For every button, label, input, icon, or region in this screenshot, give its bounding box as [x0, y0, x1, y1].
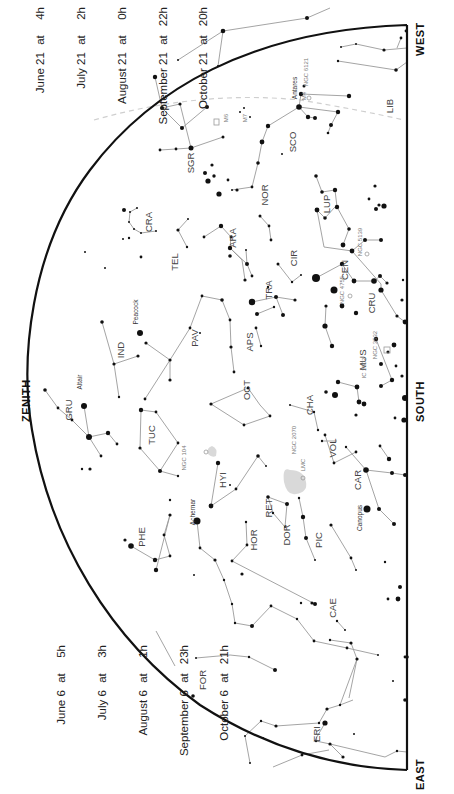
constellation-label: TUC: [146, 425, 157, 445]
constellation-label: HYI: [217, 472, 228, 488]
constellation-label: VOL: [327, 438, 338, 457]
star-name-label: Achernar: [189, 498, 196, 525]
constellation-label: RET: [263, 498, 274, 517]
date-label: July 6: [96, 690, 110, 720]
time-label: 1h: [137, 645, 151, 669]
date-label: August 21: [116, 52, 130, 104]
star-name-label: Antares: [291, 76, 298, 99]
deep-sky-label: IC 2602: [361, 357, 367, 379]
constellation-label: LUP: [321, 195, 332, 213]
date-row: September 6 at23h: [178, 645, 192, 765]
constellation-label: IND: [115, 342, 126, 359]
at-label: at: [34, 31, 48, 49]
date-label: September 21: [157, 52, 171, 124]
at-label: at: [178, 669, 192, 687]
date-label: October 21: [197, 52, 211, 109]
deep-sky-label: NGC 4755: [339, 275, 345, 304]
deep-sky-label: NGC 3532: [372, 330, 378, 359]
constellation-label: OCT: [241, 380, 252, 400]
date-row: October 6 at21h: [218, 645, 232, 765]
star-name-label: Peacock: [132, 299, 139, 325]
direction-west-label: WEST: [414, 22, 426, 56]
constellation-label: CIR: [288, 250, 299, 267]
date-label: June 21: [34, 52, 48, 93]
time-label: 21h: [218, 645, 232, 669]
deep-sky-label: NGC 104: [181, 445, 187, 471]
deep-sky-label: M7: [242, 113, 248, 122]
date-row: August 21 at0h: [116, 7, 130, 127]
at-label: at: [96, 669, 110, 687]
date-label: October 6: [218, 690, 232, 741]
deep-sky-label: NGC 2070: [291, 425, 297, 454]
constellation-label: DOR: [281, 524, 292, 545]
at-label: at: [218, 669, 232, 687]
deep-sky-label: NGC 5139: [357, 227, 363, 256]
direction-east-label: EAST: [414, 759, 426, 790]
time-label: 20h: [197, 7, 211, 31]
time-label: 22h: [157, 7, 171, 31]
dates-top-block: June 21 at4h July 21 at2h August 21 at0h…: [7, 7, 225, 127]
date-label: July 21: [75, 52, 89, 88]
constellation-label: ARA: [227, 228, 238, 248]
constellation-label: CRU: [366, 293, 377, 314]
date-row: July 6 at3h: [96, 645, 110, 765]
deep-sky-label: LMC: [300, 458, 306, 471]
at-label: at: [55, 669, 69, 687]
at-label: at: [75, 31, 89, 49]
date-label: September 6: [178, 690, 192, 756]
time-label: 23h: [178, 645, 192, 669]
constellation-label: GRU: [63, 399, 74, 420]
constellation-label: SCO: [287, 132, 298, 153]
constellation-label: CAE: [327, 598, 338, 618]
direction-zenith-label: ZENITH: [20, 379, 32, 422]
at-label: at: [137, 669, 151, 687]
constellation-label: CRA: [143, 211, 154, 232]
deep-sky-label: NGC 6121: [303, 57, 309, 86]
constellation-label: HOR: [248, 529, 259, 550]
time-label: 2h: [75, 7, 89, 31]
date-row: July 21 at2h: [75, 7, 89, 127]
constellation-label: ERI: [311, 726, 322, 742]
at-label: at: [116, 31, 130, 49]
constellation-label: CAR: [352, 470, 363, 490]
constellation-label: TRA: [263, 280, 274, 300]
deep-sky-label: M4: [301, 91, 307, 100]
dates-bottom-block: June 6 at5h July 6 at3h August 6 at1h Se…: [28, 645, 246, 765]
star-name-label: Altair: [76, 374, 83, 390]
constellation-label: NOR: [259, 184, 270, 205]
constellation-label: PIC: [313, 532, 324, 548]
direction-south-label: SOUTH: [414, 381, 426, 422]
date-row: October 21 at20h: [197, 7, 211, 127]
date-row: September 21 at22h: [157, 7, 171, 127]
constellation-label: LIB: [384, 99, 395, 113]
time-label: 4h: [34, 7, 48, 31]
constellation-label: SGR: [185, 153, 196, 174]
time-label: 0h: [116, 7, 130, 31]
date-row: June 6 at5h: [55, 645, 69, 765]
constellation-label: TEL: [169, 253, 180, 270]
constellation-label: PHE: [136, 527, 147, 547]
date-label: June 6: [55, 690, 69, 725]
time-label: 5h: [55, 645, 69, 669]
at-label: at: [157, 31, 171, 49]
star-name-label: Canopus: [356, 504, 364, 531]
time-label: 3h: [96, 645, 110, 669]
date-row: August 6 at1h: [137, 645, 151, 765]
constellation-label: APS: [244, 332, 255, 351]
deep-sky-markers: [204, 96, 390, 480]
constellation-label: PAV: [189, 329, 200, 347]
date-row: June 21 at4h: [34, 7, 48, 127]
date-label: August 6: [137, 690, 151, 735]
at-label: at: [197, 31, 211, 49]
constellation-label: CHA: [304, 394, 315, 415]
